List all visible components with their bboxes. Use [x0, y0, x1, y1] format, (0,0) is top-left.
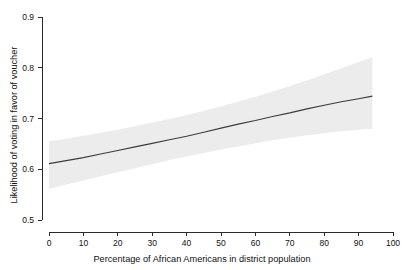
- y-tick-label: 0.6: [22, 164, 34, 174]
- x-tick-label: 40: [182, 238, 192, 248]
- x-tick-label: 100: [386, 238, 400, 248]
- confidence-band: [49, 57, 372, 189]
- x-tick-label: 10: [79, 238, 89, 248]
- y-axis-ticks: 0.50.60.70.80.9: [22, 12, 42, 225]
- voucher-likelihood-line-chart: 0.50.60.70.80.9 0102030405060708090100 P…: [0, 0, 404, 270]
- x-axis-ticks: 0102030405060708090100: [47, 232, 401, 248]
- x-tick-label: 50: [216, 238, 226, 248]
- y-tick-label: 0.7: [22, 114, 34, 124]
- x-axis-title: Percentage of African Americans in distr…: [93, 254, 310, 264]
- x-tick-label: 80: [319, 238, 329, 248]
- x-tick-label: 60: [251, 238, 261, 248]
- x-tick-label: 0: [47, 238, 52, 248]
- y-axis-title: Likelihood of voting in favor of voucher: [9, 47, 19, 204]
- y-tick-label: 0.5: [22, 215, 34, 225]
- chart-container: 0.50.60.70.80.9 0102030405060708090100 P…: [0, 0, 404, 270]
- x-tick-label: 30: [147, 238, 157, 248]
- y-tick-label: 0.8: [22, 63, 34, 73]
- confidence-interval-area: [49, 57, 372, 189]
- x-tick-label: 70: [285, 238, 295, 248]
- y-tick-label: 0.9: [22, 12, 34, 22]
- x-tick-label: 20: [113, 238, 123, 248]
- x-tick-label: 90: [354, 238, 364, 248]
